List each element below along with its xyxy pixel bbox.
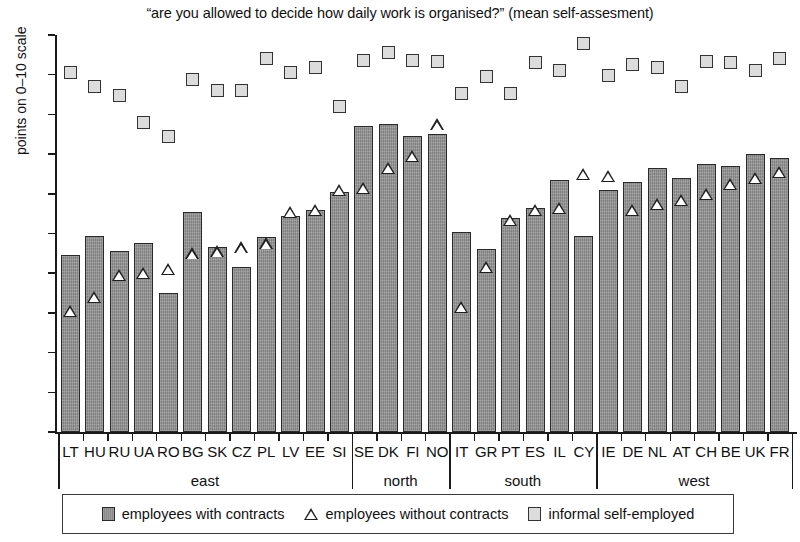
y-axis-tick <box>48 74 55 76</box>
x-axis-tick <box>645 433 646 441</box>
legend-item-label: informal self-employed <box>548 506 694 522</box>
bar-NO <box>428 134 447 432</box>
legend-item-label: employees with contracts <box>122 506 285 522</box>
x-axis-label-FR: FR <box>764 443 796 460</box>
bar-PL <box>257 237 276 432</box>
triangle-icon <box>304 508 318 520</box>
square-marker-LT <box>64 66 77 79</box>
triangle-marker-IL <box>552 202 566 214</box>
y-axis-title: points on 0–10 scale <box>13 27 29 155</box>
triangle-marker-DK <box>381 162 395 174</box>
bar-IL <box>550 180 569 432</box>
square-marker-HU <box>88 80 101 93</box>
x-axis-tick <box>278 433 279 441</box>
legend-item-label: employees without contracts <box>325 506 508 522</box>
y-axis-tick <box>48 312 55 314</box>
y-axis-tick <box>48 193 55 195</box>
triangle-marker-ES <box>528 204 542 216</box>
group-label-north: north <box>341 472 461 489</box>
group-label-west: west <box>634 472 754 489</box>
bar-FR <box>770 158 789 432</box>
square-marker-RU <box>113 89 126 102</box>
square-marker-BE <box>724 56 737 69</box>
group-label-east: east <box>145 472 265 489</box>
bar-SE <box>354 126 373 432</box>
bar-IT <box>452 232 471 432</box>
triangle-marker-HU <box>87 291 101 303</box>
triangle-marker-SI <box>332 184 346 196</box>
x-axis-tick <box>767 433 768 441</box>
legend-items: employees with contractsemployees withou… <box>63 495 733 533</box>
x-axis-tick <box>254 433 255 441</box>
chart-title: “are you allowed to decide how daily wor… <box>0 5 800 21</box>
y-axis-tick <box>48 352 55 354</box>
x-axis-tick <box>425 433 426 441</box>
bar-CY <box>574 236 593 433</box>
x-axis-tick <box>205 433 206 441</box>
triangle-marker-FI <box>405 150 419 162</box>
square-marker-SI <box>333 100 346 113</box>
square-marker-UA <box>137 116 150 129</box>
triangle-marker-NL <box>650 198 664 210</box>
square-marker-BG <box>186 73 199 86</box>
triangle-marker-AT <box>674 194 688 206</box>
triangle-marker-DE <box>625 204 639 216</box>
y-axis-tick <box>48 272 55 274</box>
chart-legend: employees with contractsemployees withou… <box>62 494 734 534</box>
square-marker-RO <box>162 130 175 143</box>
bar-CZ <box>232 267 251 432</box>
square-marker-NL <box>651 61 664 74</box>
legend-item-0: employees with contracts <box>102 506 285 522</box>
bar-LT <box>61 255 80 432</box>
square-marker-FR <box>773 52 786 65</box>
bar-LV <box>281 216 300 432</box>
bar-GR <box>477 249 496 432</box>
x-axis-tick <box>694 433 695 441</box>
x-axis-tick <box>743 433 744 441</box>
triangle-marker-BG <box>185 247 199 259</box>
bar-EE <box>306 210 325 432</box>
triangle-marker-RO <box>161 263 175 275</box>
bar-SI <box>330 192 349 432</box>
square-marker-DK <box>382 46 395 59</box>
square-marker-IT <box>455 87 468 100</box>
square-marker-CH <box>700 55 713 68</box>
square-marker-PT <box>504 87 517 100</box>
x-axis-tick <box>156 433 157 441</box>
bar-UK <box>746 154 765 432</box>
x-axis-tick <box>718 433 719 441</box>
triangle-marker-CZ <box>234 241 248 253</box>
y-axis-line <box>55 35 57 432</box>
square-marker-IE <box>602 69 615 82</box>
x-axis-tick <box>621 433 622 441</box>
chart-figure: “are you allowed to decide how daily wor… <box>0 0 800 542</box>
y-axis-tick <box>48 114 55 116</box>
group-separator <box>449 437 451 489</box>
square-marker-GR <box>480 70 493 83</box>
x-axis-tick <box>303 433 304 441</box>
triangle-marker-CH <box>699 188 713 200</box>
y-axis-tick <box>48 153 55 155</box>
triangle-marker-LV <box>283 206 297 218</box>
triangle-marker-GR <box>479 261 493 273</box>
x-axis-tick <box>181 433 182 441</box>
bar-HU <box>85 236 104 433</box>
bar-BG <box>183 212 202 432</box>
square-marker-LV <box>284 66 297 79</box>
x-axis-tick <box>670 433 671 441</box>
x-axis-tick <box>572 433 573 441</box>
triangle-marker-UA <box>136 267 150 279</box>
y-axis-tick <box>48 431 55 433</box>
triangle-marker-PT <box>503 214 517 226</box>
triangle-marker-EE <box>308 204 322 216</box>
triangle-marker-SK <box>210 245 224 257</box>
square-marker-FI <box>406 54 419 67</box>
bar-FI <box>403 136 422 432</box>
square-marker-CY <box>577 37 590 50</box>
x-axis-tick <box>229 433 230 441</box>
x-axis-tick <box>83 433 84 441</box>
x-axis-tick <box>132 433 133 441</box>
triangle-marker-FR <box>772 166 786 178</box>
light-square-icon <box>528 507 541 521</box>
square-marker-SK <box>211 84 224 97</box>
